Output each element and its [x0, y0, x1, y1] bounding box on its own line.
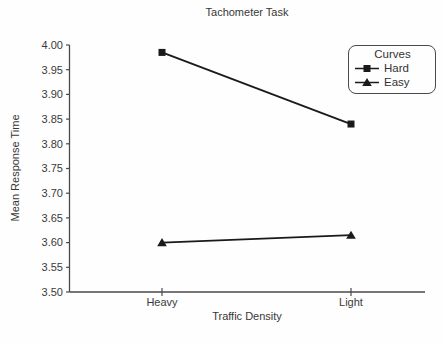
data-line-easy — [162, 235, 351, 242]
y-tick-label: 3.70 — [42, 187, 63, 199]
legend-item-easy: Easy — [354, 75, 431, 89]
y-tick-label: 4.00 — [42, 39, 63, 51]
legend-rows: HardEasy — [354, 61, 431, 89]
legend-label: Easy — [384, 75, 410, 89]
y-tick-label: 3.50 — [42, 286, 63, 298]
triangle-marker-icon — [354, 77, 380, 88]
legend-sample-marker — [364, 65, 371, 72]
y-tick-label: 3.90 — [42, 88, 63, 100]
y-tick-label: 3.85 — [42, 113, 63, 125]
y-tick-label: 3.65 — [42, 212, 63, 224]
data-point-hard — [348, 121, 355, 128]
x-tick-label: Light — [339, 296, 363, 308]
y-tick-label: 3.55 — [42, 261, 63, 273]
chart-canvas: Tachometer Task 3.503.553.603.653.703.75… — [0, 0, 442, 343]
y-tick-label: 3.75 — [42, 162, 63, 174]
data-line-hard — [162, 52, 351, 124]
y-tick-label: 3.60 — [42, 236, 63, 248]
x-axis-label: Traffic Density — [69, 310, 425, 322]
y-tick-label: 3.95 — [42, 64, 63, 76]
square-marker-icon — [354, 63, 380, 74]
y-axis-label: Mean Response Time — [9, 93, 23, 243]
legend-label: Hard — [384, 61, 409, 75]
legend-title: Curves — [354, 48, 431, 60]
x-tick-label: Heavy — [146, 296, 178, 308]
legend: Curves HardEasy — [348, 45, 436, 94]
legend-item-hard: Hard — [354, 61, 431, 75]
data-point-hard — [159, 49, 166, 56]
y-tick-label: 3.80 — [42, 138, 63, 150]
